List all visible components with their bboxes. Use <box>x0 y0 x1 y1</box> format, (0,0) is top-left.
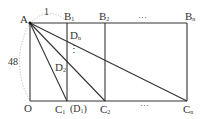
dots-top: ··· <box>138 13 147 22</box>
segment-ACn <box>30 23 187 101</box>
label-D2: D2 <box>55 62 66 73</box>
arc-48 <box>20 23 30 101</box>
point-A <box>28 21 31 24</box>
label-48: 48 <box>8 57 18 67</box>
label-O: O <box>24 103 32 114</box>
dots-bottom: ··· <box>140 101 149 110</box>
dots-vertical: ⋮ <box>69 44 79 54</box>
label-C1: C1 <box>55 104 65 115</box>
label-B1: B1 <box>64 11 74 22</box>
label-Cn: Cn <box>183 104 193 115</box>
label-Bn: Bn <box>185 11 195 22</box>
label-C2: C2 <box>100 104 110 115</box>
label-D1: (D1) <box>70 104 87 114</box>
label-A: A <box>20 14 28 25</box>
label-Dn: Dn <box>70 30 81 41</box>
label-1: 1 <box>44 7 49 17</box>
geometry-diagram: A 1 48 O B1 B2 Bn ··· Dn ⋮ D2 C1 (D1) C2… <box>0 0 205 119</box>
label-B2: B2 <box>99 11 109 22</box>
